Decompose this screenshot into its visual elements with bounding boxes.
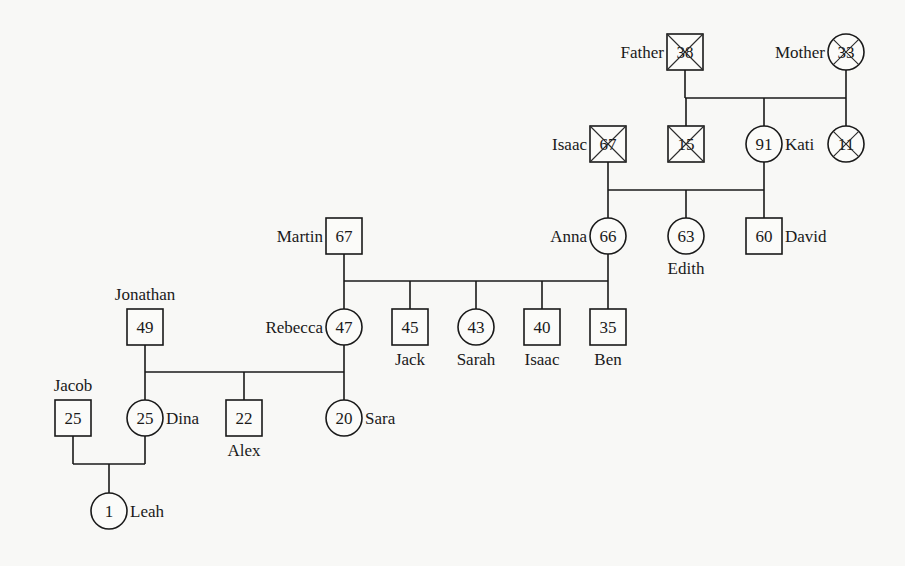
name-label: David bbox=[785, 227, 827, 246]
name-label: Isaac bbox=[525, 350, 560, 369]
name-label: Kati bbox=[785, 135, 815, 154]
name-label: Jacob bbox=[54, 376, 93, 395]
name-label: Leah bbox=[130, 502, 164, 521]
name-label: Jack bbox=[395, 350, 426, 369]
person-leah: 1Leah bbox=[91, 493, 164, 529]
person-isaac_jr: 40Isaac bbox=[524, 309, 560, 369]
person-dina: 25Dina bbox=[127, 400, 200, 436]
age-label: 63 bbox=[678, 227, 695, 246]
age-label: 66 bbox=[600, 227, 617, 246]
age-label: 43 bbox=[468, 318, 485, 337]
age-label: 22 bbox=[236, 409, 253, 428]
age-label: 25 bbox=[137, 409, 154, 428]
age-label: 91 bbox=[756, 135, 773, 154]
person-jacob: 25Jacob bbox=[54, 376, 93, 436]
age-label: 47 bbox=[336, 318, 354, 337]
name-label: Father bbox=[621, 43, 665, 62]
person-alex: 22Alex bbox=[226, 400, 262, 460]
person-daughter11: 11 bbox=[828, 126, 864, 162]
person-martin: 67Martin bbox=[277, 218, 362, 254]
name-label: Sarah bbox=[457, 350, 496, 369]
person-mother: 33Mother bbox=[775, 34, 864, 70]
person-rebecca: 47Rebecca bbox=[265, 309, 362, 345]
name-label: Alex bbox=[227, 441, 261, 460]
age-label: 25 bbox=[65, 409, 82, 428]
age-label: 35 bbox=[600, 318, 617, 337]
relationship-lines bbox=[73, 70, 846, 493]
age-label: 60 bbox=[756, 227, 773, 246]
name-label: Jonathan bbox=[115, 285, 176, 304]
person-anna: 66Anna bbox=[550, 218, 626, 254]
person-sara: 20Sara bbox=[326, 400, 396, 436]
name-label: Dina bbox=[166, 409, 200, 428]
person-jack: 45Jack bbox=[392, 309, 428, 369]
age-label: 40 bbox=[534, 318, 551, 337]
person-father: 38Father bbox=[621, 34, 703, 70]
name-label: Isaac bbox=[552, 135, 587, 154]
age-label: 1 bbox=[105, 502, 114, 521]
person-isaac_sr: 67Isaac bbox=[552, 126, 626, 162]
age-label: 49 bbox=[137, 318, 154, 337]
person-david: 60David bbox=[746, 218, 827, 254]
name-label: Anna bbox=[550, 227, 587, 246]
pedigree-diagram: 38Father33Mother67Isaac1591Kati1167Marti… bbox=[0, 0, 905, 566]
person-son15: 15 bbox=[668, 126, 704, 162]
person-ben: 35Ben bbox=[590, 309, 626, 369]
name-label: Rebecca bbox=[265, 318, 323, 337]
name-label: Martin bbox=[277, 227, 324, 246]
person-sarah: 43Sarah bbox=[457, 309, 496, 369]
age-label: 20 bbox=[336, 409, 353, 428]
age-label: 45 bbox=[402, 318, 419, 337]
person-edith: 63Edith bbox=[668, 218, 705, 278]
name-label: Ben bbox=[594, 350, 622, 369]
name-label: Edith bbox=[668, 259, 705, 278]
name-label: Mother bbox=[775, 43, 825, 62]
person-kati: 91Kati bbox=[746, 126, 815, 162]
name-label: Sara bbox=[365, 409, 396, 428]
age-label: 67 bbox=[336, 227, 354, 246]
person-jonathan: 49Jonathan bbox=[115, 285, 176, 345]
